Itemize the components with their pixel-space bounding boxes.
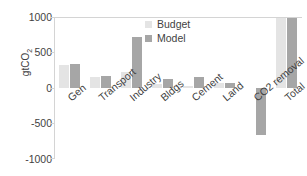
- bar-budget-gen: [59, 65, 69, 88]
- x-axis-category-labels: GenTransportIndustryBldgsCementLandCO2 r…: [54, 92, 307, 176]
- legend-item-budget: Budget: [145, 17, 190, 31]
- y-tick-label-1000: 1000: [8, 12, 52, 22]
- y-tick-label-500: 500: [8, 47, 52, 57]
- bar-model-industry: [132, 37, 142, 88]
- legend-label-budget: Budget: [157, 18, 190, 30]
- bar-chart: gtCO2 1000 500 0 -500 -1000 Budget Model…: [0, 0, 307, 176]
- y-axis-tick-0: [50, 88, 54, 89]
- legend: Budget Model: [145, 17, 190, 45]
- y-axis-tick-500: [50, 52, 54, 53]
- y-tick-label-neg1000: -1000: [8, 154, 52, 164]
- model-swatch-icon: [145, 35, 152, 42]
- legend-label-model: Model: [157, 32, 186, 44]
- budget-swatch-icon: [145, 21, 152, 28]
- legend-item-model: Model: [145, 31, 190, 45]
- y-axis-tick-1000: [50, 17, 54, 18]
- y-tick-label-neg500: -500: [8, 118, 52, 128]
- y-axis-tick-labels: 1000 500 0 -500 -1000: [0, 0, 52, 176]
- y-tick-label-0: 0: [8, 83, 52, 93]
- bar-budget-transport: [90, 77, 100, 88]
